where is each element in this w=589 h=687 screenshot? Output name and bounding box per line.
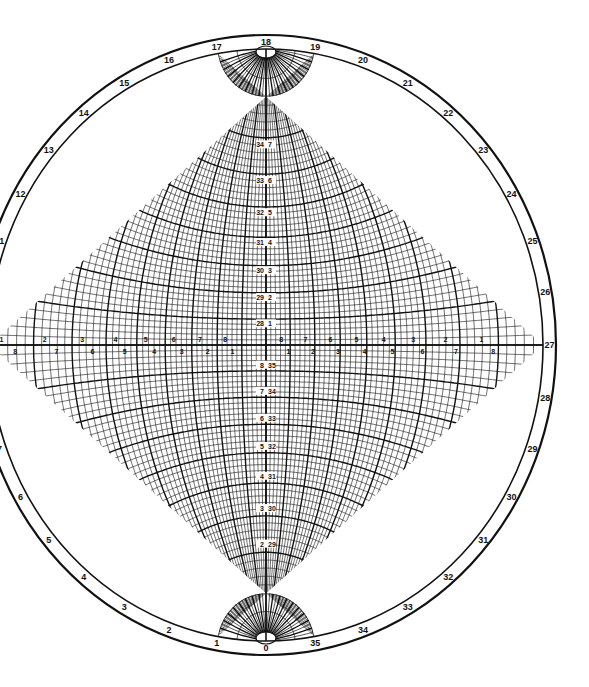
meridian-label-upper-left: 32: [256, 209, 264, 216]
equator-label-left-lower: 5: [123, 348, 127, 355]
meridian-label-upper-right: 1: [268, 320, 272, 327]
rim-label-23: 23: [478, 145, 488, 155]
rim-label-14: 14: [79, 108, 89, 118]
equator-label-right-lower: 5: [390, 348, 394, 355]
rim-label-11: 11: [0, 236, 4, 246]
rim-label-3: 3: [122, 602, 127, 612]
rim-label-21: 21: [403, 78, 413, 88]
meridian-label-lower-left: 4: [260, 473, 264, 480]
equator-label-right-upper: 7: [304, 336, 308, 343]
equator-label-left-upper: 2: [43, 336, 47, 343]
wulff-net-diagram: 0123456789101112131415161718192021222324…: [0, 0, 589, 687]
equator-label-left-lower: 1: [231, 348, 235, 355]
meridian-label-upper-left: 29: [256, 294, 264, 301]
rim-label-18: 18: [261, 37, 271, 47]
meridian-label-upper-right: 4: [268, 239, 272, 246]
rim-label-31: 31: [478, 535, 488, 545]
rim-label-0: 0: [263, 643, 268, 653]
minor-small-circle: [0, 350, 543, 355]
equator-label-left-lower: 8: [13, 348, 17, 355]
rim-label-35: 35: [310, 638, 320, 648]
equator-label-right-upper: 1: [480, 336, 484, 343]
meridian-label-lower-left: 6: [260, 415, 264, 422]
equator-label-left-upper: 6: [172, 336, 176, 343]
equator-label-right-upper: 5: [354, 336, 358, 343]
equator-label-right-upper: 2: [444, 336, 448, 343]
equator-label-left-upper: 5: [144, 336, 148, 343]
meridian-label-lower-right: 32: [268, 443, 276, 450]
meridian-label-lower-left: 8: [260, 362, 264, 369]
equator-label-left-lower: 6: [91, 348, 95, 355]
equator-label-right-lower: 8: [491, 348, 495, 355]
rim-label-32: 32: [443, 572, 453, 582]
meridian-label-lower-right: 34: [268, 388, 276, 395]
rim-label-5: 5: [46, 535, 51, 545]
rim-label-15: 15: [119, 78, 129, 88]
equator-label-right-lower: 6: [421, 348, 425, 355]
meridian-label-lower-right: 31: [268, 473, 276, 480]
meridian-label-lower-right: 29: [268, 541, 276, 548]
rim-label-20: 20: [358, 55, 368, 65]
meridian-label-lower-left: 3: [260, 505, 264, 512]
equator-label-left-upper: 8: [223, 336, 227, 343]
equator-label-right-upper: 4: [382, 336, 386, 343]
meridian-label-lower-left: 7: [260, 388, 264, 395]
rim-label-25: 25: [527, 236, 537, 246]
rim-label-19: 19: [310, 42, 320, 52]
rim-label-30: 30: [507, 492, 517, 502]
equator-label-right-lower: 3: [336, 348, 340, 355]
rim-label-2: 2: [167, 625, 172, 635]
rim-label-7: 7: [0, 444, 2, 454]
rim-label-26: 26: [540, 287, 550, 297]
equator-label-left-upper: 7: [198, 336, 202, 343]
equator-label-right-lower: 4: [362, 348, 366, 355]
rim-label-6: 6: [18, 492, 23, 502]
equator-label-left-upper: 1: [0, 336, 4, 343]
meridian-label-upper-right: 3: [268, 267, 272, 274]
meridian-label-upper-left: 31: [256, 239, 264, 246]
meridian-label-lower-left: 5: [260, 443, 264, 450]
meridian-label-upper-left: 30: [256, 267, 264, 274]
rim-label-1: 1: [214, 638, 219, 648]
meridian-label-lower-left: 2: [260, 541, 264, 548]
rim-label-29: 29: [527, 444, 537, 454]
equator-label-right-lower: 7: [454, 348, 458, 355]
equator-label-left-lower: 2: [206, 348, 210, 355]
rim-label-13: 13: [44, 145, 54, 155]
meridian-label-lower-right: 30: [268, 505, 276, 512]
meridian-label-upper-left: 34: [256, 141, 264, 148]
meridian-label-upper-left: 33: [256, 177, 264, 184]
rim-label-24: 24: [507, 189, 517, 199]
equator-label-left-upper: 3: [80, 336, 84, 343]
rim-label-34: 34: [358, 625, 368, 635]
meridian-label-lower-right: 35: [268, 362, 276, 369]
meridian-label-upper-right: 5: [268, 209, 272, 216]
meridian-label-upper-right: 2: [268, 294, 272, 301]
meridian-label-upper-right: 7: [268, 141, 272, 148]
rim-label-28: 28: [540, 393, 550, 403]
equator-label-right-upper: 8: [279, 336, 283, 343]
meridian-label-upper-right: 6: [268, 177, 272, 184]
equator-label-left-lower: 4: [152, 348, 156, 355]
rim-label-17: 17: [212, 42, 222, 52]
equator-label-right-upper: 6: [328, 336, 332, 343]
rim-label-22: 22: [443, 108, 453, 118]
meridian-label-upper-left: 28: [256, 320, 264, 327]
rim-label-27: 27: [544, 340, 554, 350]
rim-label-4: 4: [81, 572, 86, 582]
equator-label-left-upper: 4: [114, 336, 118, 343]
equator-label-right-lower: 1: [286, 348, 290, 355]
rim-label-16: 16: [164, 55, 174, 65]
equator-label-right-upper: 3: [411, 336, 415, 343]
equator-label-right-lower: 2: [311, 348, 315, 355]
equator-label-left-lower: 7: [54, 348, 58, 355]
meridian-label-lower-right: 33: [268, 415, 276, 422]
equator-label-left-lower: 3: [180, 348, 184, 355]
rim-label-12: 12: [15, 189, 25, 199]
rim-label-33: 33: [403, 602, 413, 612]
